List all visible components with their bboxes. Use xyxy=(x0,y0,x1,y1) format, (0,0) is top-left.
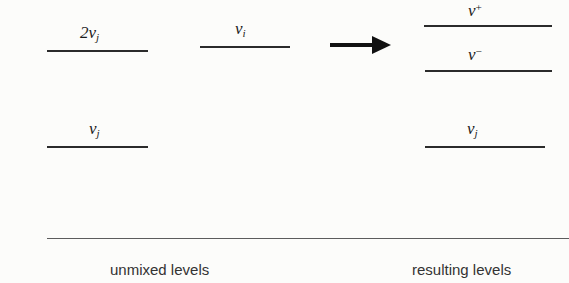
level-label-symbol: ν xyxy=(468,45,476,64)
level-line-fundamental-nuj-right xyxy=(425,146,545,148)
level-label-subscript: j xyxy=(475,127,478,139)
arrow-head xyxy=(372,36,391,54)
caption-unmixed-levels: unmixed levels xyxy=(110,262,209,277)
level-label-symbol: ν xyxy=(468,1,476,20)
energy-level-diagram: 2νj νi νj ν+ ν− νj xyxy=(0,0,569,283)
level-label-coefficient: 2 xyxy=(80,23,89,42)
level-line-overtone-2nuj xyxy=(47,50,148,52)
level-line-nu-minus xyxy=(425,70,552,72)
level-line-nu-plus xyxy=(424,25,552,27)
caption-resulting-levels: resulting levels xyxy=(412,262,511,277)
level-label-superscript: + xyxy=(476,1,482,13)
level-label-subscript: j xyxy=(96,31,99,43)
level-line-fundamental-nuj-left xyxy=(47,146,148,148)
level-label-nu-plus: ν+ xyxy=(468,2,482,19)
level-label-symbol: ν xyxy=(467,119,475,138)
level-label-fundamental-nuj-right: νj xyxy=(467,120,478,139)
level-label-superscript: − xyxy=(476,45,482,57)
arrow-right-icon xyxy=(330,36,392,54)
level-label-subscript: j xyxy=(97,127,100,139)
level-label-nu-minus: ν− xyxy=(468,46,482,63)
level-label-subscript: i xyxy=(243,27,246,39)
level-label-symbol: ν xyxy=(235,19,243,38)
level-label-overtone-2nuj: 2νj xyxy=(80,24,99,43)
arrow-shaft xyxy=(330,43,374,47)
level-label-symbol: ν xyxy=(89,119,97,138)
baseline-divider xyxy=(47,238,569,239)
level-label-fundamental-nuj-left: νj xyxy=(89,120,100,139)
level-label-symbol: ν xyxy=(89,23,97,42)
level-line-fundamental-nui xyxy=(200,46,290,48)
level-label-fundamental-nui: νi xyxy=(235,20,246,39)
